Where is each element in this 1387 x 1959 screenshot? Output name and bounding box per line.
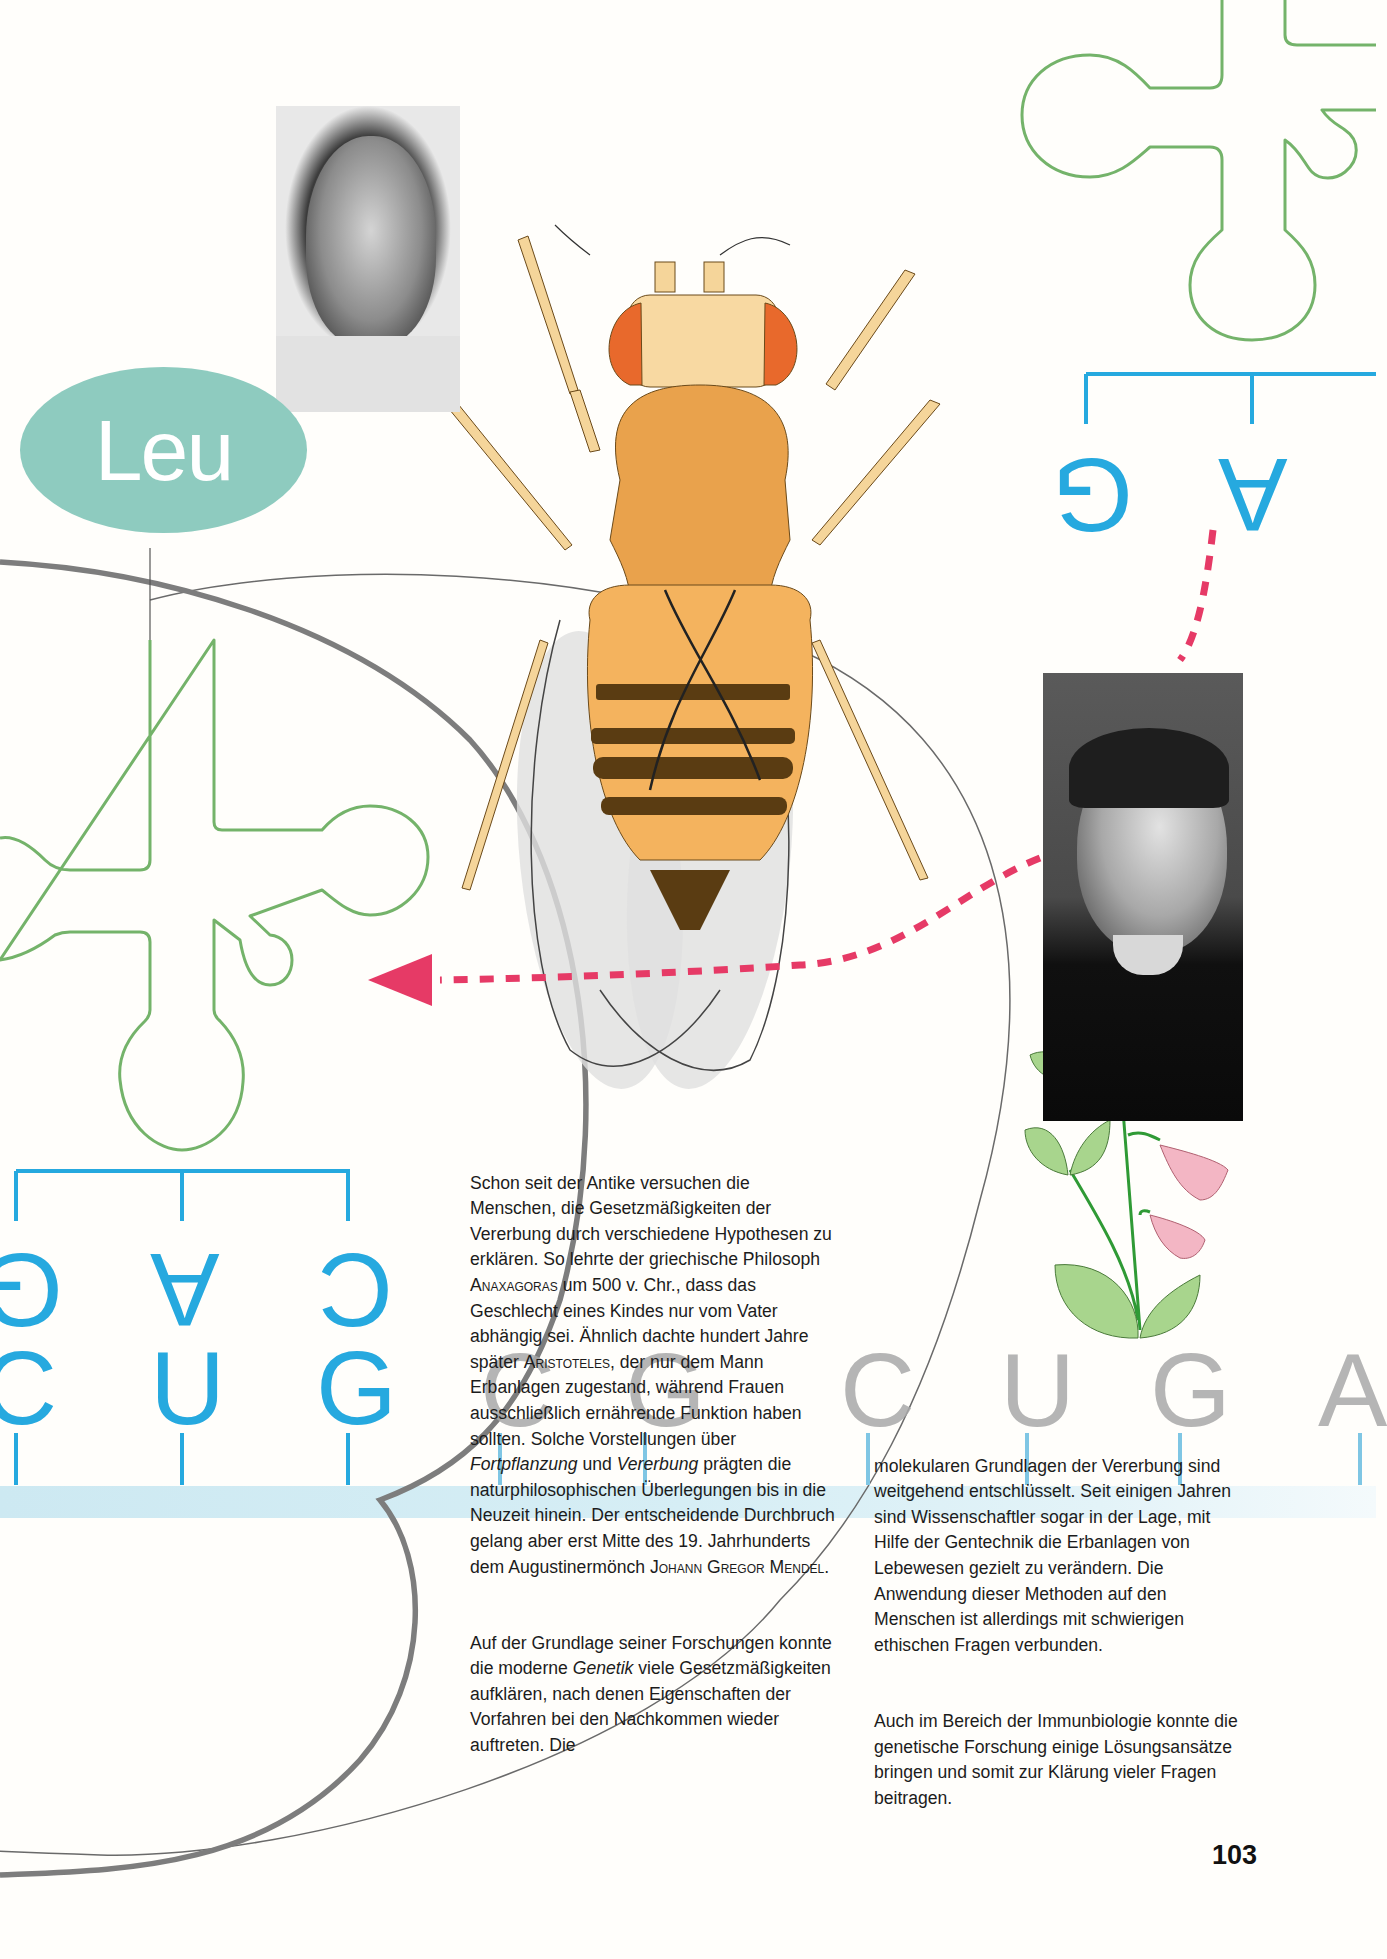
- page-number: 103: [1212, 1840, 1257, 1871]
- mrna-letter: G: [1150, 1338, 1231, 1442]
- paragraph-molecular: molekularen Grundlagen der Vererbung sin…: [874, 1454, 1244, 1659]
- arrow-head-icon: [368, 954, 432, 1006]
- anticodon-letter: A: [150, 1238, 219, 1342]
- fruit-fly-illustration: [440, 225, 940, 1097]
- mrna-letter: A: [1318, 1338, 1387, 1442]
- trna-right-outline: [1022, 0, 1376, 340]
- anticodon-letter: G: [1052, 443, 1133, 547]
- paragraph-immunobiology: Auch im Bereich der Immunbiologie konnte…: [874, 1709, 1244, 1811]
- article-column-left: Schon seit der Antike versuchen die Mens…: [470, 1145, 840, 1784]
- mrna-letter: C: [840, 1338, 915, 1442]
- portrait-photo-mendel: [1043, 673, 1243, 1121]
- mrna-letter: U: [1000, 1338, 1075, 1442]
- trna-left-outline: [0, 640, 428, 1150]
- anticodon-letter: C: [318, 1238, 393, 1342]
- paragraph-genetics: Auf der Grundlage seiner Forschungen kon…: [470, 1631, 840, 1759]
- person-name: Johann Gregor Mendel: [650, 1557, 824, 1577]
- portrait-photo-top: [276, 106, 460, 412]
- codon-letter: G: [316, 1336, 397, 1440]
- badge-label: Leu: [95, 401, 233, 500]
- codon-letter: U: [150, 1336, 225, 1440]
- italic-term: Fortpflanzung: [470, 1454, 578, 1474]
- portrait-face: [306, 136, 436, 346]
- anticodon-letter: G: [0, 1238, 63, 1342]
- person-name: Aristoteles: [524, 1352, 610, 1372]
- italic-term: Vererbung: [617, 1454, 699, 1474]
- paragraph-history: Schon seit der Antike versuchen die Mens…: [470, 1171, 840, 1581]
- portrait-hair: [1069, 728, 1229, 808]
- italic-term: Genetik: [573, 1658, 634, 1678]
- amino-acid-badge: Leu: [20, 367, 307, 533]
- person-name: Anaxagoras: [470, 1275, 558, 1295]
- portrait-shirt: [276, 336, 460, 412]
- anticodon-letter: A: [1218, 443, 1287, 547]
- codon-letter: C: [0, 1336, 57, 1440]
- article-column-right: molekularen Grundlagen der Vererbung sin…: [874, 1428, 1244, 1837]
- codon-bracket-right: [1086, 374, 1376, 424]
- portrait-collar: [1113, 935, 1183, 975]
